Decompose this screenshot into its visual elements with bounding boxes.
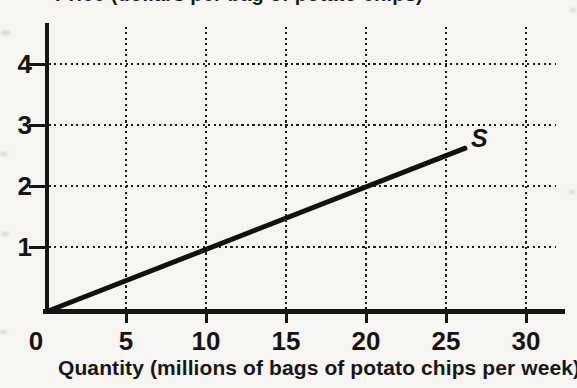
- scan-artifact: [570, 8, 576, 12]
- scan-artifact: [0, 330, 7, 334]
- gridline-x20: [365, 27, 367, 309]
- supply-curve-label: S: [471, 126, 488, 151]
- y-tick-label-4: 4: [6, 51, 32, 77]
- y-tick-label-1: 1: [6, 234, 32, 260]
- x-axis-title: Quantity (millions of bags of potato chi…: [58, 356, 570, 380]
- x-tick-15: [285, 313, 288, 323]
- y-tick-4: [29, 63, 49, 66]
- x-tick-label-15: 15: [256, 328, 316, 354]
- y-tick-label-3: 3: [6, 112, 32, 138]
- gridline-y2: [49, 185, 556, 187]
- x-tick-label-20: 20: [336, 328, 396, 354]
- scanned-supply-curve-figure: Price (dollars per bag of potato chips) …: [0, 0, 577, 388]
- x-tick-label-5: 5: [96, 328, 156, 354]
- x-tick-5: [125, 313, 128, 323]
- gridline-y4: [49, 63, 556, 65]
- x-tick-label-10: 10: [176, 328, 236, 354]
- y-axis-line: [45, 23, 49, 313]
- x-tick-label-30: 30: [496, 328, 556, 354]
- scan-artifact: [1, 30, 10, 35]
- scan-artifact: [0, 152, 7, 156]
- y-axis-title-clipped: Price (dollars per bag of potato chips): [55, 0, 423, 4]
- x-axis-line: [43, 309, 565, 314]
- x-tick-25: [445, 313, 448, 323]
- y-tick-3: [29, 124, 49, 127]
- gridline-x5: [125, 27, 127, 309]
- x-tick-20: [365, 313, 368, 323]
- y-tick-2: [29, 185, 49, 188]
- gridline-x10: [205, 27, 207, 309]
- x-tick-10: [205, 313, 208, 323]
- scan-artifact: [569, 190, 575, 194]
- supply-curve-line: [46, 145, 468, 314]
- gridline-x25: [445, 27, 447, 309]
- x-tick-30: [525, 313, 528, 323]
- y-tick-1: [29, 246, 49, 249]
- x-tick-label-25: 25: [416, 328, 476, 354]
- gridline-y1: [49, 246, 556, 248]
- scan-artifact: [1, 232, 9, 236]
- gridline-x30: [525, 27, 527, 309]
- x-tick-label-0: 0: [6, 328, 66, 354]
- gridline-x15: [285, 27, 287, 309]
- y-tick-label-2: 2: [6, 173, 32, 199]
